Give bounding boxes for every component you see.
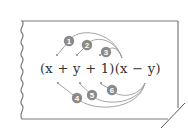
expansion-diagram: 1 2 3 4 5 6 (x + y + 1)(x − y) — [0, 0, 188, 130]
step-badge-6: 6 — [107, 85, 117, 95]
step-badge-2-label: 2 — [85, 41, 90, 50]
page-curl-line — [161, 103, 185, 128]
left-factor: (x + y + 1) — [40, 61, 115, 76]
step-badge-4: 4 — [72, 93, 82, 103]
step-badge-1: 1 — [64, 36, 74, 46]
step-badge-6-label: 6 — [110, 86, 115, 95]
step-badge-3-label: 3 — [104, 48, 109, 57]
step-badge-3: 3 — [101, 47, 111, 57]
bottom-arrows — [59, 83, 145, 107]
top-dots — [56, 54, 101, 56]
math-expression: (x + y + 1)(x − y) — [40, 61, 160, 76]
bottom-dots — [57, 82, 102, 84]
step-badge-2: 2 — [82, 40, 92, 50]
step-badge-4-label: 4 — [75, 94, 80, 103]
step-badge-5-label: 5 — [90, 91, 95, 100]
step-badge-5: 5 — [87, 90, 97, 100]
right-factor: (x − y) — [115, 61, 161, 76]
step-badge-1-label: 1 — [67, 37, 72, 46]
